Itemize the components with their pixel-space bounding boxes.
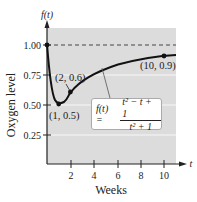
annotation-point-2: (2, 0.6): [55, 72, 86, 84]
point-min: [56, 102, 61, 107]
x-axis-var-label: t: [190, 158, 193, 169]
x-axis-title: Weeks: [95, 183, 127, 197]
x-tick-label: 4: [92, 170, 97, 181]
formula-box: f(t) = t² − t + 1 t² + 1: [91, 98, 162, 130]
y-tick-label: 0.25: [24, 130, 42, 141]
y-tick-label: 1.00: [24, 40, 42, 51]
x-tick-label: 8: [139, 170, 144, 181]
y-axis-arrow-icon: [45, 20, 50, 28]
formula-fraction: t² − t + 1 t² + 1: [120, 96, 161, 133]
point-start: [45, 43, 50, 48]
y-tick-label: 0.50: [24, 100, 42, 111]
annotation-point-10: (10, 0.9): [140, 60, 176, 72]
annotation-point-min: (1, 0.5): [49, 110, 80, 122]
formula-numerator: t² − t + 1: [120, 96, 161, 121]
x-tick-label: 6: [116, 170, 121, 181]
y-axis-title: Oxygen level: [4, 72, 18, 137]
x-tick-label: 2: [69, 170, 74, 181]
point-2: [68, 90, 73, 95]
x-tick-label: 10: [159, 170, 169, 181]
point-10: [162, 54, 167, 59]
y-tick-label: 0.75: [24, 70, 42, 81]
formula-lhs: f(t) =: [96, 103, 117, 125]
formula-denominator: t² + 1: [129, 121, 152, 133]
x-axis-arrow-icon: [179, 162, 187, 167]
y-axis-var-label: f(t): [41, 9, 54, 21]
